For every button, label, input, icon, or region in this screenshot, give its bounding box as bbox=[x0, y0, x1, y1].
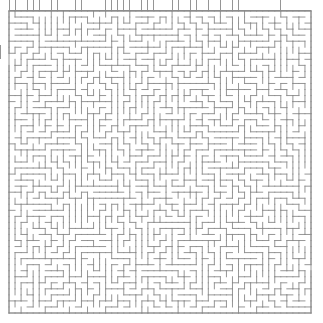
clipped-maze-row bbox=[9, 0, 311, 10]
maze-figure: Maze bbox=[0, 0, 323, 323]
maze-overlay bbox=[0, 0, 323, 323]
